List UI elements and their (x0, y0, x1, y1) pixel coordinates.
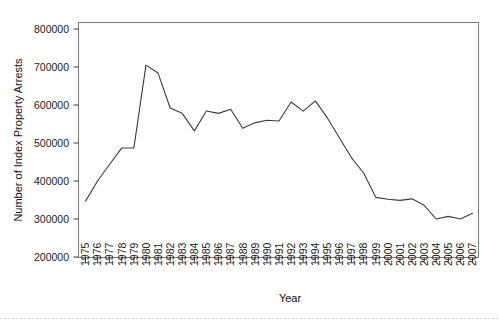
y-axis-tick-labels: 2000003000004000005000006000007000008000… (34, 23, 69, 263)
x-tick-label: 1980 (140, 242, 152, 266)
x-tick-label: 1979 (128, 242, 140, 266)
y-tick-label: 200000 (34, 251, 69, 263)
x-tick-label: 2007 (466, 242, 478, 266)
y-tick-label: 300000 (34, 213, 69, 225)
x-tick-label: 1994 (309, 242, 321, 266)
line-chart: 2000003000004000005000006000007000008000… (0, 0, 499, 321)
y-tick-label: 500000 (34, 137, 69, 149)
x-tick-label: 1986 (212, 242, 224, 266)
x-tick-label: 1982 (164, 242, 176, 266)
x-tick-label: 1995 (321, 242, 333, 266)
x-tick-label: 1990 (261, 242, 273, 266)
x-tick-label: 1991 (273, 242, 285, 266)
x-tick-label: 1992 (285, 242, 297, 266)
y-axis-ticks (74, 29, 79, 257)
y-tick-label: 600000 (34, 99, 69, 111)
x-tick-label: 1987 (224, 242, 236, 266)
y-tick-label: 700000 (34, 61, 69, 73)
x-tick-label: 1985 (200, 242, 212, 266)
x-tick-label: 1983 (176, 242, 188, 266)
y-tick-label: 400000 (34, 175, 69, 187)
plot-frame (79, 23, 479, 258)
x-tick-label: 1976 (91, 242, 103, 266)
x-tick-label: 1975 (79, 242, 91, 266)
x-tick-label: 2006 (454, 242, 466, 266)
x-tick-label: 1978 (116, 242, 128, 266)
page-bottom-divider (0, 318, 499, 319)
y-tick-label: 800000 (34, 23, 69, 35)
x-tick-label: 2000 (382, 242, 394, 266)
x-axis-tick-labels: 1975197619771978197919801981198219831984… (79, 242, 478, 266)
y-axis-title: Number of Index Property Arrests (12, 58, 24, 222)
x-tick-label: 1996 (333, 242, 345, 266)
x-tick-label: 1984 (188, 242, 200, 266)
x-tick-label: 2005 (442, 242, 454, 266)
x-tick-label: 1998 (357, 242, 369, 266)
x-tick-label: 2004 (430, 242, 442, 266)
data-line-series-0 (86, 65, 473, 219)
x-tick-label: 1988 (237, 242, 249, 266)
x-tick-label: 1977 (103, 242, 115, 266)
x-tick-label: 1999 (370, 242, 382, 266)
x-tick-label: 1989 (249, 242, 261, 266)
x-tick-label: 1993 (297, 242, 309, 266)
chart-page: 2000003000004000005000006000007000008000… (0, 0, 499, 321)
x-tick-label: 2002 (406, 242, 418, 266)
x-tick-label: 1981 (152, 242, 164, 266)
x-axis-title: Year (279, 292, 302, 304)
x-tick-label: 1997 (345, 242, 357, 266)
x-tick-label: 2001 (394, 242, 406, 266)
x-tick-label: 2003 (418, 242, 430, 266)
